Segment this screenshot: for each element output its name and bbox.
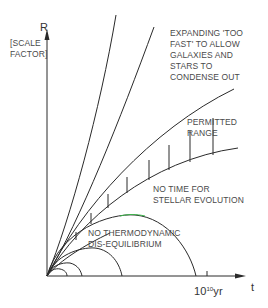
closed-curve-small xyxy=(47,263,82,276)
region-no-time-2: STELLAR EVOLUTION xyxy=(153,195,244,206)
x-tick-unit: yr xyxy=(213,285,222,297)
region-permitted-1: PERMITTED xyxy=(187,117,237,128)
region-no-thermo-1: NO THERMODYNAMIC xyxy=(88,228,181,239)
region-no-thermo-2: DIS-EQUILIBRIUM xyxy=(88,239,162,250)
region-no-time-1: NO TIME FOR xyxy=(153,184,210,195)
region-expanding-3: GALAXIES AND xyxy=(170,50,233,61)
region-permitted-2: RANGE xyxy=(187,128,218,139)
y-axis-label: R xyxy=(40,22,48,33)
region-expanding-1: EXPANDING 'TOO xyxy=(170,28,243,39)
x-tick-base: 10 xyxy=(194,285,206,297)
x-tick-label: 1010yr xyxy=(194,284,223,297)
region-expanding-2: FAST' TO ALLOW xyxy=(170,39,240,50)
y-axis-sublabel-1: [SCALE xyxy=(10,38,41,49)
y-axis-sublabel-2: FACTOR] xyxy=(10,49,47,60)
permitted-lower-curve xyxy=(47,148,238,276)
x-axis-arrow-icon xyxy=(235,274,246,279)
region-expanding-4: STARS TO xyxy=(170,61,212,72)
x-axis-label: t xyxy=(251,282,254,293)
region-expanding-5: CONDENSE OUT xyxy=(170,72,240,83)
